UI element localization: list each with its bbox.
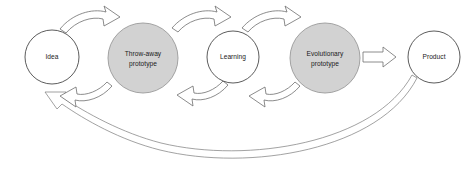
edge-learning-to-throwaway [177, 81, 228, 106]
node-evolutionary-prototype-label-line2: prototype [311, 60, 339, 68]
node-evolutionary-prototype[interactable]: Evolutionary prototype [290, 23, 360, 93]
edge-throwaway-to-learning [172, 6, 231, 32]
node-throw-away-prototype[interactable]: Throw-away prototype [108, 23, 178, 93]
evolutionary-to-learning-arrow-shape [249, 82, 300, 107]
node-product[interactable]: Product [408, 31, 460, 83]
node-learning-label: Learning [220, 53, 246, 61]
evolutionary-to-product-arrow-shape [363, 47, 396, 67]
node-learning[interactable]: Learning [207, 31, 259, 83]
edge-evolutionary-to-product [363, 47, 396, 67]
diagram-canvas: Idea Throw-away prototype Learning Evolu… [0, 0, 475, 172]
prototyping-process-diagram: Idea Throw-away prototype Learning Evolu… [0, 0, 475, 172]
edge-learning-to-evolutionary [242, 6, 301, 32]
node-throw-away-prototype-circle[interactable] [108, 23, 178, 93]
node-product-label: Product [422, 53, 445, 60]
learning-to-evolutionary-arrow-shape [242, 6, 301, 32]
node-throw-away-prototype-label-line1: Throw-away [125, 50, 162, 58]
node-idea-label: Idea [45, 53, 58, 60]
node-evolutionary-prototype-circle[interactable] [290, 23, 360, 93]
learning-to-throwaway-arrow-shape [177, 81, 228, 106]
node-throw-away-prototype-label-line2: prototype [129, 60, 157, 68]
idea-to-throwaway-arrow-shape [60, 6, 120, 33]
edge-evolutionary-to-learning [249, 82, 300, 107]
node-idea[interactable]: Idea [25, 30, 79, 84]
edge-idea-to-throwaway [60, 6, 120, 33]
node-evolutionary-prototype-label-line1: Evolutionary [307, 50, 345, 58]
throwaway-to-learning-arrow-shape [172, 6, 231, 32]
